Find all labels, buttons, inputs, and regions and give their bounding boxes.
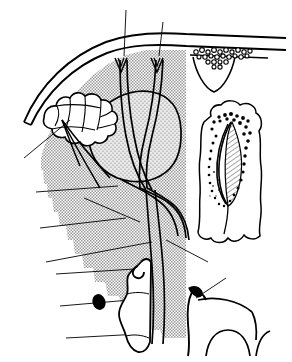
follicle-inset-group <box>198 101 262 243</box>
figure-root: Anatomical line drawing of lacrimal glan… <box>0 0 292 362</box>
anatomical-figure-svg <box>0 0 292 362</box>
